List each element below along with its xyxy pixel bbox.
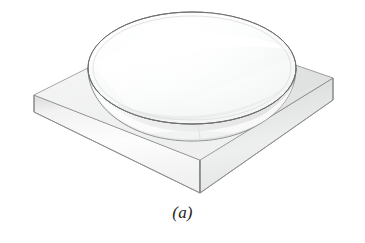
figure-container: (a) [0,0,365,243]
figure-caption: (a) [0,203,365,223]
